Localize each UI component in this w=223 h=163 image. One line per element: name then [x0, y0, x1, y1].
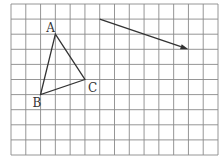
label-a: A [45, 21, 55, 35]
label-c: C [88, 81, 97, 95]
grid-lines [11, 4, 218, 155]
arrowhead-icon [180, 44, 188, 49]
translation-vector [100, 19, 181, 47]
grid-diagram: A B C [0, 0, 223, 163]
label-b: B [33, 96, 42, 110]
